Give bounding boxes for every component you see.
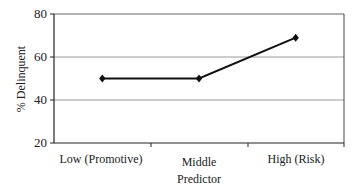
x-axis-title: Predictor bbox=[177, 172, 221, 186]
x-category-label: Low (Promotive) bbox=[60, 152, 143, 166]
data-series bbox=[99, 34, 299, 83]
diamond-marker-icon bbox=[292, 34, 298, 42]
y-tick-label: 60 bbox=[34, 49, 47, 64]
y-axis-title: % Delinquent bbox=[14, 45, 28, 112]
y-tick-label: 20 bbox=[34, 135, 47, 150]
x-category-label: High (Risk) bbox=[268, 152, 325, 166]
y-tick-label: 40 bbox=[34, 92, 47, 107]
diamond-marker-icon bbox=[99, 75, 105, 83]
diamond-marker-icon bbox=[196, 75, 202, 83]
series-line bbox=[102, 38, 295, 79]
y-tick-label: 80 bbox=[34, 6, 47, 21]
line-chart: 80 60 40 20 % Delinquent Low (Promotive)… bbox=[0, 0, 362, 195]
x-category-label: Middle bbox=[182, 155, 217, 169]
